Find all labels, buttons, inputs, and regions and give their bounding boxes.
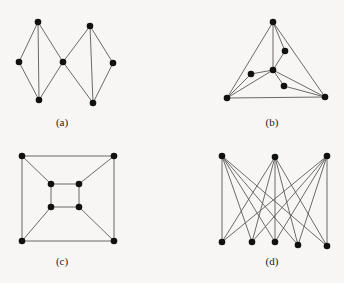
graph-vertex	[295, 242, 302, 249]
caption-b: (b)	[266, 116, 279, 129]
caption-d: (d)	[266, 255, 279, 268]
graph-vertex	[248, 71, 255, 78]
graph-vertex	[36, 97, 43, 104]
graph-vertex	[272, 154, 279, 161]
graph-a-planar-double-diamond	[16, 19, 117, 107]
graph-edge	[222, 156, 327, 242]
graph-vertex	[19, 238, 26, 245]
graph-vertex	[76, 181, 83, 188]
graph-vertex	[282, 48, 289, 55]
graph-vertex	[110, 60, 117, 67]
graph-vertex	[219, 239, 226, 246]
graph-edge	[63, 26, 90, 62]
graph-vertex	[76, 204, 83, 211]
graph-vertex	[60, 59, 67, 66]
graph-edge	[275, 157, 327, 246]
graph-edge	[19, 22, 38, 62]
graph-vertex	[249, 239, 256, 246]
graph-vertex	[270, 19, 277, 26]
graph-vertex	[48, 181, 55, 188]
graph-edge	[93, 63, 113, 103]
graph-vertex	[111, 238, 118, 245]
graph-edge	[38, 22, 63, 62]
graph-vertex	[111, 153, 118, 160]
graph-vertex	[270, 67, 277, 74]
graph-edge	[39, 62, 63, 100]
graph-figure-canvas: (a) (b) (c) (d)	[0, 0, 344, 283]
graph-vertex	[219, 153, 226, 160]
graph-vertex	[324, 243, 331, 250]
graph-edge	[63, 62, 93, 103]
graph-edge	[79, 207, 114, 241]
graph-edge	[275, 156, 327, 242]
graph-vertex	[324, 153, 331, 160]
graph-vertex	[281, 83, 288, 90]
graph-edge	[90, 26, 93, 103]
graph-edge	[227, 97, 325, 98]
graph-vertex	[322, 94, 329, 101]
graph-b-triangle-subdivision	[224, 19, 329, 102]
graph-vertex	[224, 95, 231, 102]
graph-edge	[22, 156, 51, 184]
graph-edge	[273, 51, 285, 70]
graph-edge	[19, 62, 39, 100]
graph-edge	[90, 26, 113, 63]
graph-edge	[273, 70, 325, 97]
graph-edge	[298, 156, 327, 245]
graph-d-complete-bipartite-k35	[219, 153, 331, 250]
graph-edge	[22, 207, 51, 241]
graph-vertex	[35, 19, 42, 26]
graph-vertex	[272, 239, 279, 246]
caption-c: (c)	[56, 255, 69, 268]
graph-edge	[38, 22, 39, 100]
graph-c-cube-graph	[19, 153, 118, 245]
graph-vertex	[16, 59, 23, 66]
caption-a: (a)	[56, 116, 69, 129]
graph-edge	[227, 22, 273, 98]
graph-vertex	[48, 204, 55, 211]
graph-vertex	[19, 153, 26, 160]
graph-vertex	[90, 100, 97, 107]
graph-edge	[79, 156, 114, 184]
graph-vertex	[87, 23, 94, 30]
